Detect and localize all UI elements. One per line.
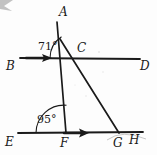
angle-label-95: 95° [37,114,57,125]
point-label-e: E [5,136,14,148]
point-label-a: A [59,6,68,18]
figure-canvas [0,0,157,155]
angle-label-71: 71° [38,41,58,52]
point-label-f: F [60,137,68,149]
point-label-g: G [113,137,123,149]
point-label-b: B [6,60,15,72]
point-label-d: D [140,60,150,72]
point-label-c: C [77,42,86,54]
point-label-h: H [129,134,139,146]
scan-artifact-corner [0,0,13,11]
geometry-figure: A B C D E F G H 71° 95° [0,0,157,155]
line-cg [60,39,119,133]
parallel-arrow-bd-icon [26,54,52,62]
